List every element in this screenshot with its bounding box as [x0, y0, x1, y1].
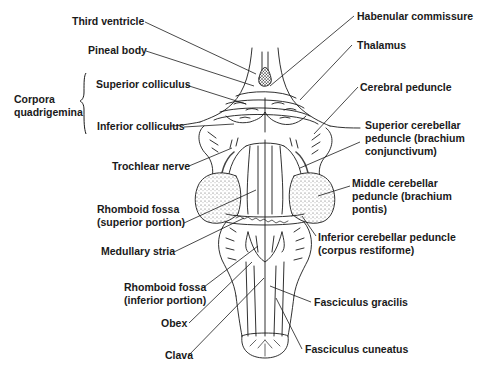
label-line: Inferior cerebellar peduncle — [318, 231, 456, 244]
label-superior-colliculus: Superior colliculus — [96, 78, 191, 91]
label-line: (inferior portion) — [124, 294, 206, 307]
brainstem-diagram: Third ventricle Pineal body Superior col… — [0, 0, 480, 376]
third-ventricle-wall-right — [278, 48, 330, 126]
pineal-body-shape — [259, 68, 272, 87]
label-line: Middle cerebellar — [352, 177, 452, 190]
label-clava: Clava — [165, 349, 193, 362]
label-line: conjunctivum) — [365, 145, 465, 158]
label-line: peduncle (brachium — [365, 132, 465, 145]
label-thalamus: Thalamus — [357, 39, 406, 52]
label-obex: Obex — [161, 317, 187, 330]
label-line: quadrigemina — [14, 106, 83, 119]
label-rhomboid-fossa-inferior: Rhomboid fossa (inferior portion) — [124, 281, 206, 307]
label-pineal-body: Pineal body — [88, 44, 147, 57]
label-inferior-colliculus: Inferior colliculus — [97, 120, 185, 133]
label-line: peduncle (brachium — [352, 190, 452, 203]
label-inferior-cerebellar-peduncle: Inferior cerebellar peduncle (corpus res… — [318, 231, 456, 257]
label-line: (superior portion) — [97, 216, 185, 229]
label-medullary-stria: Medullary stria — [101, 245, 175, 258]
third-ventricle-wall-left — [200, 48, 252, 122]
label-superior-cerebellar-peduncle: Superior cerebellar peduncle (brachium c… — [365, 119, 465, 158]
label-line: (corpus restiforme) — [318, 244, 456, 257]
label-middle-cerebellar-peduncle: Middle cerebellar peduncle (brachium pon… — [352, 177, 452, 216]
label-fasciculus-cuneatus: Fasciculus cuneatus — [305, 343, 408, 356]
label-line: Superior cerebellar — [365, 119, 465, 132]
label-third-ventricle: Third ventricle — [72, 15, 144, 28]
label-line: Rhomboid fossa — [97, 203, 185, 216]
label-trochlear-nerve: Trochlear nerve — [112, 160, 190, 173]
label-cerebral-peduncle: Cerebral peduncle — [360, 81, 452, 94]
label-corpora-quadrigemina: Corpora quadrigemina — [14, 93, 83, 119]
label-rhomboid-fossa-superior: Rhomboid fossa (superior portion) — [97, 203, 185, 229]
label-fasciculus-gracilis: Fasciculus gracilis — [314, 296, 408, 309]
label-line: Rhomboid fossa — [124, 281, 206, 294]
label-line: pontis) — [352, 203, 452, 216]
label-habenular-commissure: Habenular commissure — [357, 10, 473, 23]
label-line: Corpora — [14, 93, 83, 106]
